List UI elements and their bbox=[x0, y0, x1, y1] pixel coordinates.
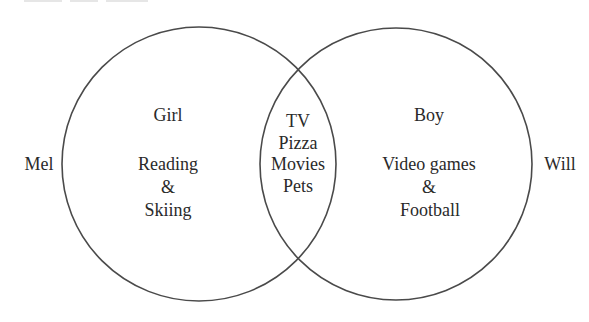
intersection-item: Pizza bbox=[279, 133, 318, 153]
intersection-item: TV bbox=[286, 111, 310, 131]
right-set-item: Football bbox=[400, 200, 460, 220]
right-set-outside-label: Will bbox=[544, 154, 575, 174]
cropped-top-text-remnant bbox=[24, 0, 148, 2]
left-set-item: Reading bbox=[138, 154, 198, 174]
right-set-title: Boy bbox=[414, 105, 444, 125]
left-set-item: & bbox=[161, 177, 175, 197]
left-set-outside-label: Mel bbox=[25, 154, 54, 174]
intersection-item: Movies bbox=[271, 154, 325, 174]
right-set-item: Video games bbox=[382, 154, 475, 174]
left-set-item: Skiing bbox=[144, 200, 191, 220]
left-set-title: Girl bbox=[154, 105, 183, 125]
intersection-item: Pets bbox=[283, 176, 313, 196]
right-set-item: & bbox=[422, 177, 436, 197]
venn-diagram: Mel Will Girl Reading & Skiing TV Pizza … bbox=[0, 0, 589, 322]
